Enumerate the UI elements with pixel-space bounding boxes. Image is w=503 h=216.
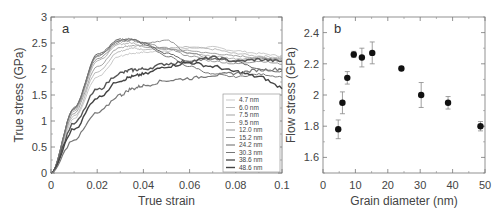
data-point [418,83,424,108]
x-tick-label: 0.06 [179,179,200,191]
legend-label: 38.6 nm [239,156,263,163]
x-tick-label: 20 [382,179,394,191]
x-axis-title: Grain diameter (nm) [350,194,457,208]
legend-label: 30.3 nm [239,149,263,156]
panel-label-b: b [334,21,341,36]
legend: 4.7 nm6.0 nm7.5 nm9.5 nm12.0 nm15.2 nm24… [223,94,280,172]
y-tick-label: 2.2 [304,58,319,70]
y-tick-label: 1.6 [304,151,319,163]
marker [344,75,350,81]
plot-frame [323,17,485,173]
data-point [477,122,483,131]
x-tick-label: 0.02 [86,179,107,191]
y-tick-label: 3 [41,11,47,23]
data-point [339,92,345,114]
x-tick-label: 0 [48,179,54,191]
data-point [344,72,350,84]
y-tick-label: 2 [313,89,319,101]
x-tick-label: 40 [446,179,458,191]
legend-label: 4.7 nm [239,96,259,103]
x-tick-label: 0 [320,179,326,191]
data-point [445,97,451,109]
data-point [335,120,341,139]
x-tick-label: 30 [414,179,426,191]
panel-a-stress-strain: 00.020.040.060.080.100.511.522.53True st… [12,11,290,208]
legend-label: 48.6 nm [239,164,263,171]
marker [418,92,424,98]
figure: 00.020.040.060.080.100.511.522.53True st… [0,0,503,216]
data-point [351,51,357,57]
y-axis-title: True stress (GPa) [12,48,26,143]
marker [445,100,451,106]
x-tick-label: 0.1 [274,179,289,191]
y-tick-label: 1.5 [32,89,47,101]
x-tick-label: 50 [479,179,491,191]
panel-label-a: a [62,21,70,36]
y-axis-title: Flow stress (GPa) [284,47,298,143]
y-tick-label: 2.5 [32,37,47,49]
y-tick-label: 2.4 [304,27,319,39]
marker [398,65,404,71]
legend-label: 7.5 nm [239,111,259,118]
x-tick-label: 0.08 [225,179,246,191]
y-tick-label: 1 [41,115,47,127]
x-axis-title: True strain [138,194,195,208]
marker [335,126,341,132]
panel-b-flow-stress: 010203040501.61.822.22.4Grain diameter (… [284,17,491,208]
x-tick-label: 10 [349,179,361,191]
marker [339,100,345,106]
y-tick-label: 2 [41,63,47,75]
legend-label: 24.2 nm [239,141,263,148]
legend-label: 12.0 nm [239,126,263,133]
data-point [398,65,404,71]
marker [477,123,483,129]
marker [359,54,365,60]
y-tick-label: 1.8 [304,120,319,132]
marker [369,50,375,56]
marker [351,51,357,57]
data-point [359,48,365,67]
y-tick-label: 0 [41,167,47,179]
y-tick-label: 0.5 [32,141,47,153]
legend-label: 6.0 nm [239,104,259,111]
data-point [369,42,375,64]
x-tick-label: 0.04 [133,179,154,191]
legend-label: 9.5 nm [239,119,259,126]
legend-label: 15.2 nm [239,134,263,141]
